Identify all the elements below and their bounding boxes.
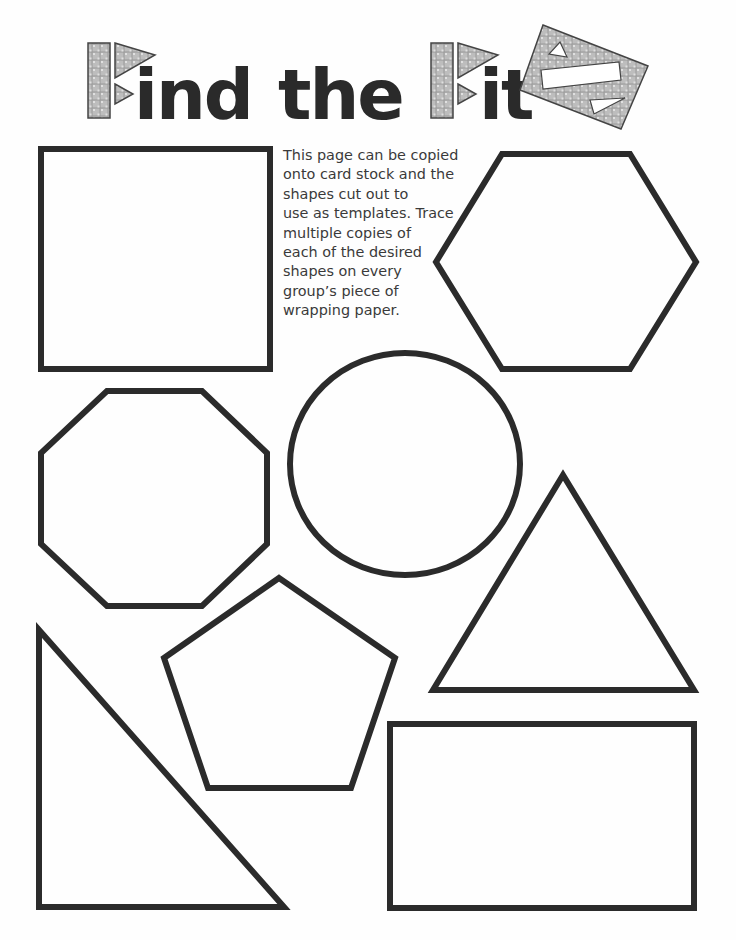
shape-templates bbox=[0, 0, 736, 940]
circle-template bbox=[290, 353, 520, 575]
square-template bbox=[41, 149, 270, 369]
hexagon-template bbox=[436, 154, 696, 369]
pentagon-template bbox=[164, 578, 395, 788]
worksheet-page: ind the it This page can be copied onto … bbox=[0, 0, 736, 940]
octagon-template bbox=[41, 391, 267, 606]
right-triangle-template bbox=[39, 630, 284, 907]
rectangle-template bbox=[390, 724, 694, 908]
triangle-template bbox=[433, 475, 694, 690]
